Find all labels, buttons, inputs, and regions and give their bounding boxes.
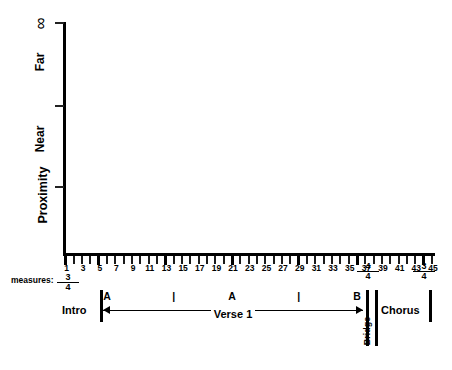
- section-span-verse: Verse 1: [103, 304, 363, 318]
- x-axis-tick-18: [206, 256, 208, 264]
- time-signature-chorus: 3 4: [413, 262, 435, 282]
- y-axis-tick-far: [55, 105, 64, 107]
- y-axis-tick-near: [55, 186, 64, 188]
- section-boundary-bar-bridge-end: [375, 290, 378, 346]
- section-label-verse: Verse 1: [211, 308, 256, 320]
- x-axis-tick-32: [323, 256, 325, 264]
- section-marker-3-divider: |: [286, 291, 312, 302]
- x-axis-tick-24: [256, 256, 258, 264]
- y-axis-title: Proximity: [36, 160, 50, 230]
- x-axis-tick-20: [223, 256, 225, 264]
- time-signature-start-numerator: 3: [57, 273, 79, 282]
- section-label-bridge: Bridge: [362, 309, 372, 353]
- x-axis-tick-40: [389, 256, 391, 264]
- x-axis-tick-28: [289, 256, 291, 264]
- section-marker-2-a: A: [219, 291, 245, 302]
- x-axis-tick-2: [73, 256, 75, 264]
- x-axis-tick-26: [273, 256, 275, 264]
- x-axis-tick-4: [89, 256, 91, 264]
- x-axis-tick-30: [306, 256, 308, 264]
- section-label-chorus: Chorus: [381, 305, 420, 316]
- x-axis-tick-12: [156, 256, 158, 264]
- time-signature-chorus-numerator: 3: [413, 262, 435, 271]
- y-axis-tick-infinity: [55, 22, 64, 24]
- y-tick-label-near: Near: [34, 115, 46, 163]
- verse-label-wrapper: Verse 1: [103, 304, 363, 322]
- proximity-measures-chart: ∞ Far Near Proximity 1357911131517192123…: [0, 0, 452, 370]
- y-tick-label-far: Far: [34, 42, 46, 82]
- section-label-intro: Intro: [62, 305, 86, 316]
- time-signature-bridge-numerator: 4: [357, 262, 379, 271]
- x-axis-tick-14: [173, 256, 175, 264]
- y-axis-line: [63, 22, 66, 256]
- time-signature-start: 3 4: [57, 273, 79, 293]
- x-axis-tick-42: [406, 256, 408, 264]
- y-tick-label-infinity: ∞: [32, 9, 49, 39]
- time-signature-chorus-denominator: 4: [413, 271, 435, 281]
- x-axis-tick-22: [239, 256, 241, 264]
- time-signature-bridge: 4 4: [357, 262, 379, 282]
- x-axis-tick-34: [339, 256, 341, 264]
- x-axis-tick-16: [189, 256, 191, 264]
- time-signature-bridge-denominator: 4: [357, 271, 379, 281]
- time-signature-start-denominator: 4: [57, 282, 79, 292]
- x-axis-tick-6: [106, 256, 108, 264]
- x-axis-tick-8: [123, 256, 125, 264]
- section-boundary-bar-chorus-end: [429, 290, 432, 322]
- measures-caption: measures:: [11, 275, 54, 285]
- section-marker-1-divider: |: [161, 291, 187, 302]
- x-axis-tick-10: [139, 256, 141, 264]
- section-marker-0-a: A: [94, 291, 120, 302]
